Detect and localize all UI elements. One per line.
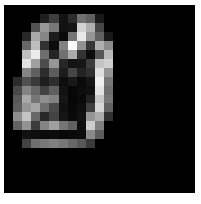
pixel-cell: [177, 68, 186, 77]
pixel-cell: [150, 77, 159, 86]
pixel-cell: [95, 41, 104, 50]
pixel-cell: [68, 148, 77, 157]
pixel-cell: [95, 157, 104, 166]
pixel-cell: [177, 86, 186, 95]
pixel-cell: [113, 166, 122, 175]
pixel-cell: [77, 166, 86, 175]
pixel-cell: [104, 139, 113, 148]
pixel-cell: [4, 77, 13, 86]
pixel-cell: [49, 112, 58, 121]
pixel-cell: [31, 59, 40, 68]
pixel-cell: [140, 139, 149, 148]
pixel-cell: [159, 77, 168, 86]
pixel-cell: [86, 59, 95, 68]
pixel-cell: [131, 5, 140, 14]
pixel-cell: [31, 130, 40, 139]
pixel-cell: [186, 32, 195, 41]
pixel-cell: [140, 103, 149, 112]
pixel-cell: [186, 184, 195, 193]
pixel-cell: [4, 175, 13, 184]
pixel-cell: [4, 41, 13, 50]
pixel-cell: [113, 157, 122, 166]
pixel-cell: [86, 95, 95, 104]
pixel-cell: [40, 112, 49, 121]
pixel-cell: [177, 157, 186, 166]
pixel-cell: [150, 5, 159, 14]
pixel-cell: [31, 14, 40, 23]
pixel-cell: [150, 59, 159, 68]
pixel-cell: [4, 166, 13, 175]
pixel-cell: [122, 121, 131, 130]
pixel-cell: [31, 103, 40, 112]
pixel-cell: [4, 95, 13, 104]
pixel-cell: [4, 157, 13, 166]
image-canvas: [4, 5, 195, 193]
pixel-cell: [31, 184, 40, 193]
pixel-cell: [22, 50, 31, 59]
pixel-cell: [168, 166, 177, 175]
pixel-cell: [122, 103, 131, 112]
pixel-cell: [150, 86, 159, 95]
pixel-cell: [150, 23, 159, 32]
pixel-cell: [177, 59, 186, 68]
pixel-cell: [159, 41, 168, 50]
pixel-cell: [122, 5, 131, 14]
pixel-cell: [49, 103, 58, 112]
pixel-cell: [113, 121, 122, 130]
pixel-cell: [177, 175, 186, 184]
pixel-cell: [95, 68, 104, 77]
pixel-cell: [13, 148, 22, 157]
pixel-cell: [4, 112, 13, 121]
pixel-cell: [159, 5, 168, 14]
pixel-cell: [104, 86, 113, 95]
pixel-cell: [150, 175, 159, 184]
pixel-cell: [86, 148, 95, 157]
pixel-cell: [68, 139, 77, 148]
pixel-cell: [13, 86, 22, 95]
pixel-cell: [186, 139, 195, 148]
pixel-cell: [159, 103, 168, 112]
pixel-cell: [159, 68, 168, 77]
pixel-cell: [122, 112, 131, 121]
pixel-cell: [49, 14, 58, 23]
pixel-cell: [86, 130, 95, 139]
pixel-cell: [86, 41, 95, 50]
pixel-cell: [159, 130, 168, 139]
pixel-cell: [122, 68, 131, 77]
pixel-cell: [77, 130, 86, 139]
pixel-cell: [140, 157, 149, 166]
pixel-cell: [140, 166, 149, 175]
pixel-cell: [49, 59, 58, 68]
pixel-cell: [68, 184, 77, 193]
pixel-cell: [113, 23, 122, 32]
pixel-cell: [168, 121, 177, 130]
pixel-cell: [168, 50, 177, 59]
pixel-cell: [168, 41, 177, 50]
pixel-cell: [177, 23, 186, 32]
pixel-cell: [159, 14, 168, 23]
pixel-cell: [49, 77, 58, 86]
pixel-cell: [49, 95, 58, 104]
pixel-cell: [122, 184, 131, 193]
pixel-cell: [13, 139, 22, 148]
pixel-cell: [59, 157, 68, 166]
pixel-cell: [49, 139, 58, 148]
pixel-cell: [4, 130, 13, 139]
pixel-cell: [95, 184, 104, 193]
pixel-cell: [68, 175, 77, 184]
pixel-cell: [13, 166, 22, 175]
pixel-cell: [49, 130, 58, 139]
pixel-cell: [186, 77, 195, 86]
pixel-cell: [13, 14, 22, 23]
pixel-cell: [86, 32, 95, 41]
pixel-cell: [104, 68, 113, 77]
pixel-cell: [13, 50, 22, 59]
pixel-cell: [168, 184, 177, 193]
pixel-cell: [13, 175, 22, 184]
pixel-cell: [77, 77, 86, 86]
pixel-cell: [150, 157, 159, 166]
pixel-cell: [113, 59, 122, 68]
pixel-cell: [40, 95, 49, 104]
pixel-cell: [86, 103, 95, 112]
pixel-cell: [177, 184, 186, 193]
